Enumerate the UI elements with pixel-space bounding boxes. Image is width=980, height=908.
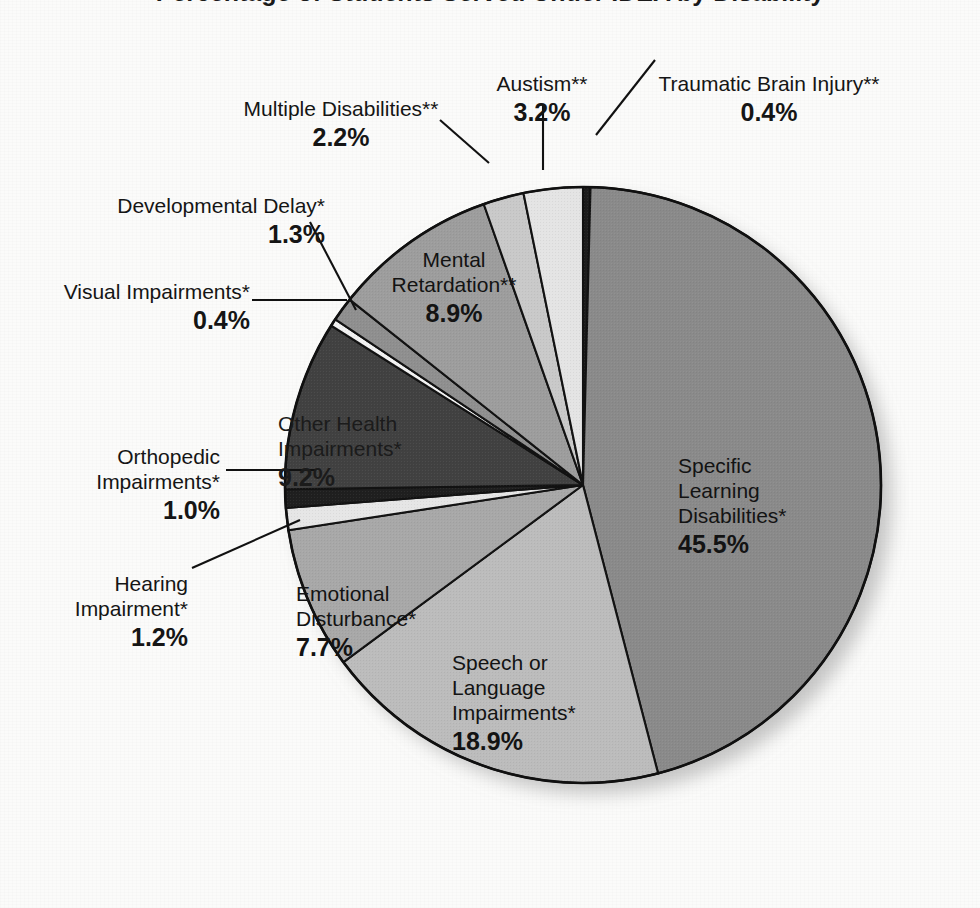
label-visual-impairments-pct: 0.4% (20, 305, 250, 335)
label-hearing-impairment-name: Hearing Impairment* (75, 572, 188, 620)
label-developmental-delay-name: Developmental Delay* (117, 194, 325, 217)
label-emotional-disturbance-name: Emotional Disturbance* (296, 582, 416, 630)
label-austism-name: Austism** (496, 72, 587, 95)
label-traumatic-brain-injury-pct: 0.4% (604, 97, 934, 127)
label-other-health-impairments-pct: 9.2% (278, 462, 508, 492)
label-developmental-delay-pct: 1.3% (30, 219, 325, 249)
label-other-health-impairments: Other Health Impairments* 9.2% (278, 386, 508, 517)
label-specific-learning-disabilities-pct: 45.5% (678, 529, 908, 559)
label-orthopedic-impairments-name: Orthopedic Impairments* (96, 445, 220, 493)
label-speech-or-language-impairments-name: Speech or Language Impairments* (452, 651, 576, 724)
label-austism: Austism** 3.2% (462, 46, 622, 152)
label-austism-pct: 3.2% (462, 97, 622, 127)
label-mental-retardation-name: Mental Retardation** (392, 248, 517, 296)
label-orthopedic-impairments-pct: 1.0% (10, 495, 220, 525)
label-other-health-impairments-name: Other Health Impairments* (278, 412, 402, 460)
label-speech-or-language-impairments: Speech or Language Impairments* 18.9% (452, 625, 682, 781)
label-multiple-disabilities: Multiple Disabilities** 2.2% (196, 71, 486, 177)
label-speech-or-language-impairments-pct: 18.9% (452, 726, 682, 756)
label-specific-learning-disabilities-name: Specific Learning Disabilities* (678, 454, 787, 527)
label-orthopedic-impairments: Orthopedic Impairments* 1.0% (10, 419, 220, 550)
label-traumatic-brain-injury: Traumatic Brain Injury** 0.4% (604, 46, 934, 152)
label-hearing-impairment: Hearing Impairment* 1.2% (10, 546, 188, 677)
label-traumatic-brain-injury-name: Traumatic Brain Injury** (659, 72, 880, 95)
label-visual-impairments-name: Visual Impairments* (64, 280, 250, 303)
label-mental-retardation-pct: 8.9% (350, 298, 558, 328)
label-hearing-impairment-pct: 1.2% (10, 622, 188, 652)
label-multiple-disabilities-pct: 2.2% (196, 122, 486, 152)
label-visual-impairments: Visual Impairments* 0.4% (20, 254, 250, 360)
label-specific-learning-disabilities: Specific Learning Disabilities* 45.5% (678, 428, 908, 584)
label-mental-retardation: Mental Retardation** 8.9% (350, 222, 558, 353)
label-multiple-disabilities-name: Multiple Disabilities** (244, 97, 439, 120)
